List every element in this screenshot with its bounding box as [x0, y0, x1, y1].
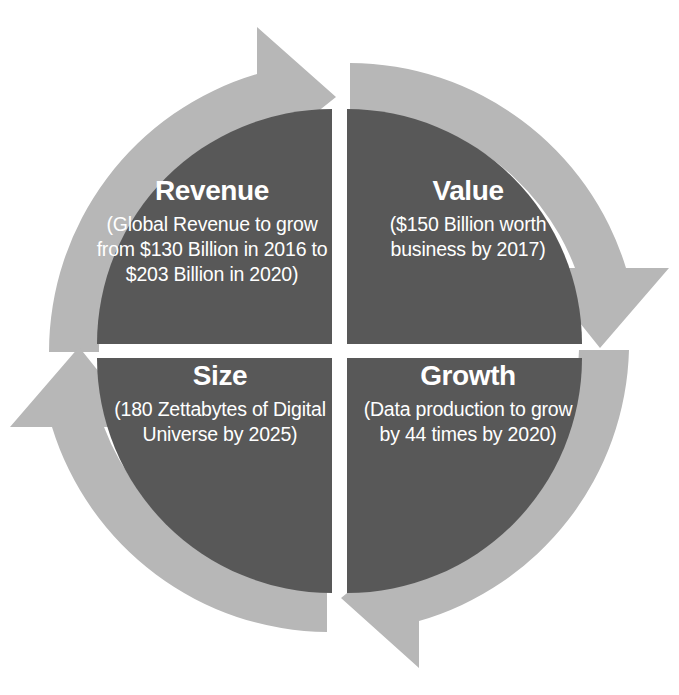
quadrant-size-title: Size — [104, 361, 336, 390]
quadrant-size-body: (180 Zettabytes of Digital Universe by 2… — [104, 397, 336, 447]
quadrant-size[interactable]: Size (180 Zettabytes of Digital Universe… — [104, 361, 336, 447]
quadrant-revenue-title: Revenue — [96, 176, 328, 205]
cycle-diagram-graphic — [0, 0, 679, 695]
cycle-diagram: Revenue (Global Revenue to grow from $13… — [0, 0, 679, 695]
quadrant-value-title: Value — [352, 176, 584, 205]
quadrant-revenue[interactable]: Revenue (Global Revenue to grow from $13… — [96, 176, 328, 287]
quadrant-growth[interactable]: Growth (Data production to grow by 44 ti… — [352, 361, 584, 447]
quadrant-growth-title: Growth — [352, 361, 584, 390]
arrow-ring — [10, 27, 669, 668]
quadrant-value-body: ($150 Billion worth business by 2017) — [352, 212, 584, 262]
quadrant-revenue-body: (Global Revenue to grow from $130 Billio… — [96, 212, 328, 287]
quadrant-growth-body: (Data production to grow by 44 times by … — [352, 397, 584, 447]
quadrant-value[interactable]: Value ($150 Billion worth business by 20… — [352, 176, 584, 262]
